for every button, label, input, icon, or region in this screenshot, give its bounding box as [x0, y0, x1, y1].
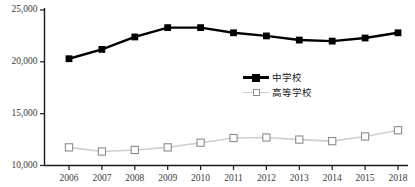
- chart-legend: 中学校 高等学校: [243, 70, 353, 100]
- data-point-marker: [98, 148, 105, 155]
- data-point-marker: [296, 136, 303, 143]
- data-point-marker: [296, 37, 303, 44]
- data-point-marker: [362, 35, 369, 42]
- data-point-marker: [131, 146, 138, 153]
- y-axis-tick-label: 10,000: [11, 161, 37, 171]
- data-point-marker: [164, 144, 171, 151]
- data-point-marker: [197, 139, 204, 146]
- data-point-marker: [329, 38, 336, 45]
- data-point-marker: [230, 29, 237, 36]
- data-point-marker: [263, 134, 270, 141]
- legend-swatch-filled-square-icon: [243, 72, 269, 84]
- legend-swatch-open-square-icon: [243, 87, 269, 99]
- data-point-marker: [394, 127, 401, 134]
- data-point-marker: [164, 24, 171, 31]
- y-axis-tick-label: 15,000: [11, 109, 37, 119]
- legend-label-series-1: 高等学校: [269, 88, 312, 98]
- legend-item-series-0: 中学校: [243, 70, 353, 85]
- data-point-marker: [65, 144, 72, 151]
- x-axis-tick-label: 2018: [378, 174, 415, 184]
- y-axis-tick-label: 25,000: [11, 5, 37, 15]
- data-point-marker: [395, 29, 402, 36]
- data-point-marker: [230, 134, 237, 141]
- data-point-marker: [66, 55, 73, 62]
- data-point-marker: [329, 138, 336, 145]
- data-point-marker: [131, 34, 138, 41]
- data-point-marker: [197, 24, 204, 31]
- data-point-marker: [362, 133, 369, 140]
- legend-label-series-0: 中学校: [269, 73, 302, 83]
- line-chart: 10,00015,00020,00025,000 200620072008200…: [0, 0, 415, 187]
- data-point-marker: [99, 46, 106, 53]
- data-point-marker: [263, 33, 270, 40]
- legend-item-series-1: 高等学校: [243, 85, 353, 100]
- y-axis-tick-label: 20,000: [11, 57, 37, 67]
